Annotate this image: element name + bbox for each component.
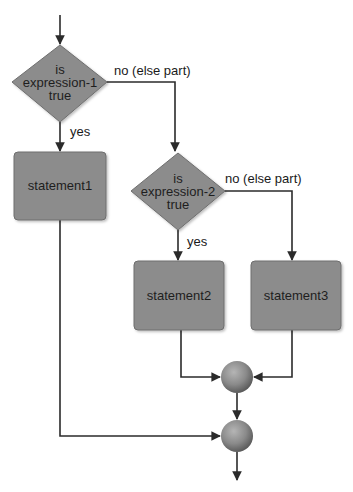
s3-to-junction-arrow [254, 330, 292, 377]
statement2-label: statement2 [147, 288, 211, 303]
junction-1-circle [221, 361, 253, 393]
d1-no-label: no (else part) [114, 63, 191, 78]
flowchart-canvas: no (else part) yes no (else part) yes is… [0, 0, 353, 492]
decision-2-line-3: true [167, 197, 189, 212]
d2-yes-label: yes [187, 234, 208, 249]
s2-to-junction-arrow [181, 330, 220, 377]
d2-no-arrow [225, 191, 292, 260]
decision-1-line-3: true [49, 88, 71, 103]
statement3-label: statement3 [264, 288, 328, 303]
junction-2-circle [221, 420, 253, 452]
d1-yes-label: yes [70, 124, 91, 139]
statement1-label: statement1 [28, 178, 92, 193]
flowchart-svg: no (else part) yes no (else part) yes is… [0, 0, 353, 492]
d2-no-label: no (else part) [225, 171, 302, 186]
d1-no-arrow [107, 82, 175, 151]
